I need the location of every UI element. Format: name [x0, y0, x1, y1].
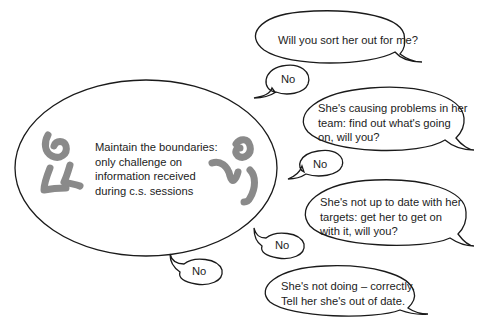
request-bubble-4: She's not doing – correctly. Tell her sh…: [281, 279, 415, 308]
reply-bubble-1: No: [281, 72, 295, 87]
central-line: during c.s. sessions: [95, 184, 218, 199]
central-text: Maintain the boundaries: only challenge …: [95, 140, 218, 198]
central-line: information received: [95, 169, 218, 184]
request-line: She's causing problems in her: [318, 101, 468, 116]
request-line: targets: get her to get on: [320, 210, 461, 225]
central-line: only challenge on: [95, 155, 218, 170]
reply-bubble-2: No: [313, 157, 327, 172]
request-line: on, will you?: [318, 130, 468, 145]
request-line: team: find out what's going: [318, 116, 468, 131]
reply-bubble-3: No: [275, 238, 289, 253]
request-bubble-3: She's not up to date with her targets: g…: [320, 195, 461, 239]
request-line: She's not up to date with her: [320, 195, 461, 210]
request-bubble-1: Will you sort her out for me?: [278, 33, 418, 48]
request-bubble-2: She's causing problems in her team: find…: [318, 101, 468, 145]
request-line: She's not doing – correctly.: [281, 279, 415, 294]
request-line: with it, will you?: [320, 224, 461, 239]
request-line: Will you sort her out for me?: [278, 33, 418, 48]
central-line: Maintain the boundaries:: [95, 140, 218, 155]
reply-bubble-4: No: [192, 264, 206, 279]
request-line: Tell her she's out of date.: [281, 294, 415, 309]
